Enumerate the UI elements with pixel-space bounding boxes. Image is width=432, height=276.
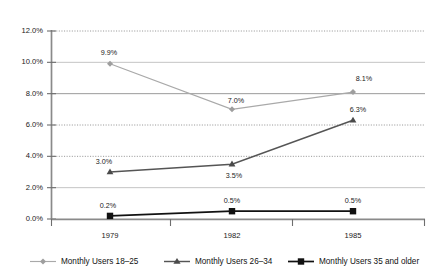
series-marker-18-25-1985 [350,89,356,95]
data-label-35-plus-1979: 0.2% [100,201,117,210]
legend-item-35-plus[interactable]: Monthly Users 35 and older [288,257,419,266]
y-tick-label-10: 10.0% [21,57,43,66]
legend-label-35-plus: Monthly Users 35 and older [319,257,419,266]
series-marker-26-34-1985 [350,117,357,123]
legend-marker-diamond-icon [40,259,46,265]
y-axis-labels: 12.0% 10.0% 8.0% 6.0% 4.0% 2.0% 0.0% [21,26,43,223]
y-tick-label-6: 6.0% [26,120,44,129]
legend-label-18-25: Monthly Users 18–25 [61,257,139,266]
data-label-18-25-1979: 9.9% [101,48,118,57]
data-labels-26-34: 3.0% 3.5% 6.3% [96,105,367,180]
data-labels-18-25: 9.9% 7.0% 8.1% [101,48,373,105]
x-tick-label-1985: 1985 [345,231,362,240]
legend: Monthly Users 18–25 Monthly Users 26–34 … [30,257,419,266]
x-axis-labels: 1979 1982 1985 [102,231,362,240]
series-marker-18-25-1982 [229,106,235,112]
data-label-26-34-1985: 6.3% [350,105,367,114]
x-tick-label-1979: 1979 [102,231,119,240]
series-marker-35-plus-1985 [350,208,356,214]
data-label-35-plus-1982: 0.5% [224,196,241,205]
series-marker-18-25-1979 [107,61,113,67]
data-labels-35-plus: 0.2% 0.5% 0.5% [100,196,362,210]
y-tick-label-8: 8.0% [26,89,44,98]
data-label-26-34-1982: 3.5% [226,171,243,180]
y-tick-label-12: 12.0% [21,26,43,35]
line-chart: 12.0% 10.0% 8.0% 6.0% 4.0% 2.0% 0.0% 197… [0,0,432,276]
data-label-35-plus-1985: 0.5% [345,196,362,205]
data-label-18-25-1985: 8.1% [356,74,373,83]
legend-marker-square-icon [298,258,304,264]
legend-label-26-34: Monthly Users 26–34 [195,257,273,266]
legend-item-26-34[interactable]: Monthly Users 26–34 [164,257,273,266]
chart-canvas: 12.0% 10.0% 8.0% 6.0% 4.0% 2.0% 0.0% 197… [0,0,432,276]
x-axis [51,219,425,226]
data-label-26-34-1979: 3.0% [96,157,113,166]
data-label-18-25-1982: 7.0% [228,96,245,105]
y-tick-label-4: 4.0% [26,151,44,160]
y-axis [47,30,56,220]
series-monthly-users-35-and-older [107,208,356,219]
legend-item-18-25[interactable]: Monthly Users 18–25 [30,257,139,266]
x-tick-label-1982: 1982 [224,231,241,240]
y-tick-label-2: 2.0% [26,183,44,192]
series-marker-35-plus-1982 [229,208,235,214]
series-marker-35-plus-1979 [107,213,113,219]
y-tick-label-0: 0.0% [26,214,44,223]
